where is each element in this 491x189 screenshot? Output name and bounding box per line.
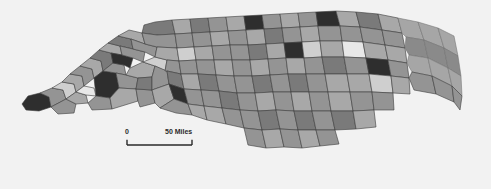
county-region[interactable] [353, 110, 376, 129]
county-region[interactable] [190, 18, 210, 33]
county-region[interactable] [288, 74, 309, 92]
county-region[interactable] [198, 74, 219, 91]
county-region[interactable] [372, 92, 394, 110]
county-region[interactable] [309, 92, 331, 111]
county-region[interactable] [194, 46, 214, 60]
county-region[interactable] [388, 60, 409, 78]
county-region[interactable] [172, 19, 192, 34]
county-region[interactable] [340, 26, 363, 42]
county-region[interactable] [318, 26, 342, 41]
county-region[interactable] [369, 74, 393, 93]
county-region[interactable] [322, 57, 347, 74]
county-region[interactable] [192, 32, 212, 47]
scale-bar-max-label: 50 Miles [165, 128, 192, 135]
county-region[interactable] [175, 33, 194, 48]
county-region[interactable] [350, 92, 374, 111]
county-region[interactable] [331, 111, 356, 130]
scale-bar-zero-label: 0 [125, 128, 129, 135]
county-region[interactable] [237, 93, 258, 111]
county-region[interactable] [255, 92, 276, 111]
county-region[interactable] [320, 41, 344, 57]
county-region[interactable] [216, 75, 237, 93]
county-region[interactable] [316, 130, 339, 146]
county-region[interactable] [212, 45, 232, 60]
county-region[interactable] [234, 76, 255, 93]
county-region[interactable] [208, 17, 228, 32]
county-region[interactable] [177, 47, 196, 61]
county-region[interactable] [280, 13, 300, 28]
county-region[interactable] [273, 92, 294, 111]
map-scale-bar: 0 50 Miles [120, 128, 215, 154]
county-region[interactable] [270, 74, 291, 92]
county-region[interactable] [366, 58, 391, 76]
county-region[interactable] [228, 30, 248, 45]
county-region[interactable] [325, 74, 350, 92]
county-region[interactable] [306, 74, 328, 92]
scale-bar-bracket [126, 139, 193, 146]
county-region[interactable] [298, 12, 318, 27]
county-region[interactable] [328, 92, 353, 111]
county-region[interactable] [264, 28, 284, 44]
county-region[interactable] [304, 57, 325, 74]
north-carolina-county-map[interactable] [0, 0, 491, 189]
county-region[interactable] [282, 27, 302, 43]
county-region[interactable] [226, 16, 246, 31]
county-region[interactable] [291, 92, 312, 111]
county-region[interactable] [252, 75, 273, 93]
choropleth-map-figure: 0 50 Miles [0, 0, 491, 189]
county-region[interactable] [196, 60, 216, 75]
county-region[interactable] [214, 60, 234, 76]
county-region[interactable] [268, 58, 288, 75]
county-region[interactable] [347, 74, 372, 92]
county-region[interactable] [363, 42, 388, 60]
county-region[interactable] [250, 59, 270, 76]
county-region[interactable] [232, 60, 252, 76]
county-region[interactable] [248, 44, 268, 60]
county-region[interactable] [391, 76, 410, 94]
county-region[interactable] [344, 57, 369, 74]
county-region[interactable] [210, 31, 230, 46]
county-region[interactable] [136, 77, 152, 90]
county-region[interactable] [246, 29, 266, 45]
county-region[interactable] [179, 60, 198, 74]
county-region[interactable] [286, 58, 306, 74]
county-region[interactable] [201, 90, 222, 108]
county-region[interactable] [284, 42, 304, 58]
county-region[interactable] [230, 45, 250, 60]
county-region[interactable] [302, 41, 322, 58]
county-region[interactable] [342, 41, 366, 58]
county-region[interactable] [244, 15, 264, 30]
county-region[interactable] [262, 14, 282, 29]
county-region[interactable] [181, 74, 201, 90]
county-region[interactable] [300, 26, 320, 42]
county-region[interactable] [266, 43, 286, 59]
